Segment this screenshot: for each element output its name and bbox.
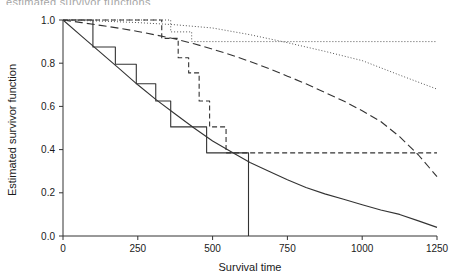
y-axis-title: Estimated survivor function	[6, 64, 18, 196]
x-tick-label: 0	[60, 243, 66, 254]
series-line-1	[63, 20, 437, 227]
x-tick-label: 500	[204, 243, 221, 254]
cropped-caption-text: estimated survivor functions	[6, 0, 151, 5]
x-tick-label: 1000	[351, 243, 374, 254]
chart-canvas: 025050075010001250 0.00.20.40.60.81.0 Su…	[0, 0, 459, 279]
plot-series-group	[63, 20, 437, 236]
x-tick-label: 750	[279, 243, 296, 254]
y-tick-label: 0.0	[41, 231, 55, 242]
series-line-5	[63, 20, 437, 89]
x-axis: 025050075010001250	[60, 236, 448, 254]
y-axis: 0.00.20.40.60.81.0	[41, 15, 63, 242]
x-tick-label: 1250	[426, 243, 449, 254]
x-tick-label: 250	[129, 243, 146, 254]
y-tick-label: 0.2	[41, 187, 55, 198]
series-line-2	[63, 20, 437, 153]
y-tick-label: 1.0	[41, 15, 55, 26]
y-tick-label: 0.4	[41, 144, 55, 155]
survival-plot-figure: estimated survivor functions 02505007501…	[0, 0, 459, 279]
series-line-0	[63, 20, 249, 236]
y-tick-label: 0.6	[41, 101, 55, 112]
y-tick-label: 0.8	[41, 58, 55, 69]
series-line-4	[63, 20, 437, 42]
x-axis-title: Survival time	[219, 261, 282, 273]
